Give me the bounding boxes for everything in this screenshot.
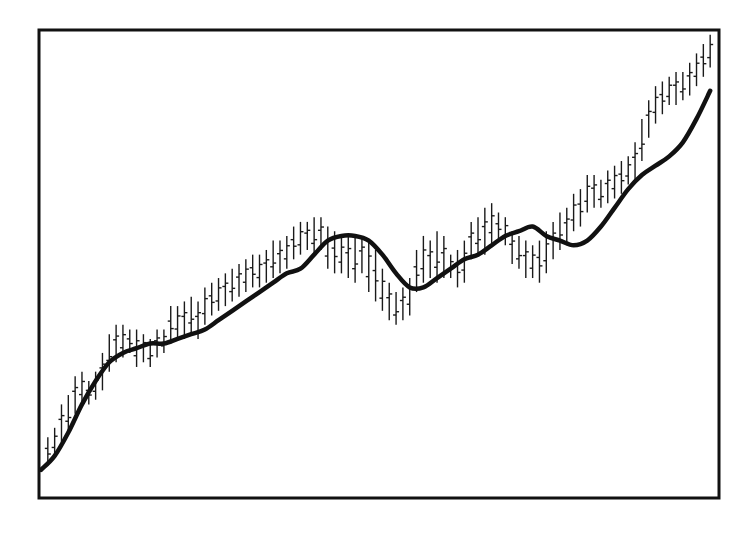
chart-frame [39, 30, 719, 498]
price-chart [0, 0, 748, 534]
